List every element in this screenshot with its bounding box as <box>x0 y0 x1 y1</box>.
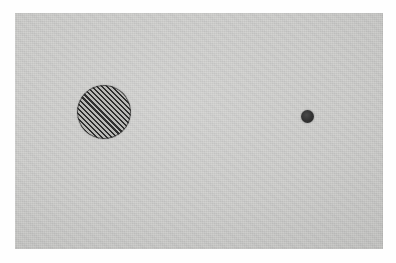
figure-root <box>0 0 396 263</box>
hatched-circle-outline <box>77 85 131 139</box>
figure-caption <box>0 0 1 1</box>
plate-lighting-gradient <box>15 13 383 249</box>
solid-dot-label <box>301 110 302 111</box>
photographic-plate <box>15 13 383 249</box>
paper-grain-texture <box>15 13 383 249</box>
plate-edge-shadow <box>15 13 383 249</box>
solid-dot-shape <box>301 110 314 123</box>
hatched-circle-shape <box>77 85 131 139</box>
